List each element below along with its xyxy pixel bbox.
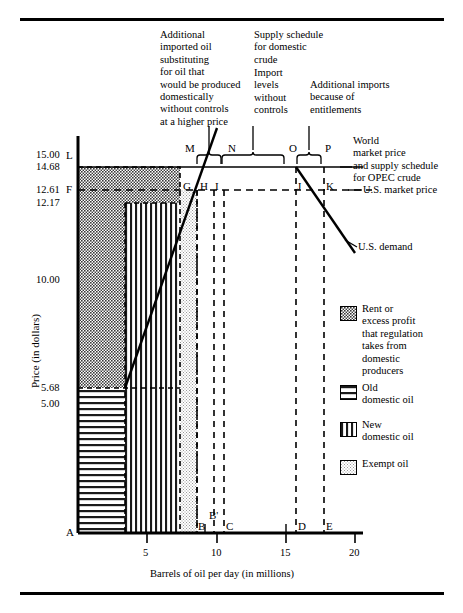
xtick-5: 5 [143, 547, 148, 558]
x-axis-title: Barrels of oil per day (in millions) [150, 568, 294, 580]
xtick-20: 20 [349, 547, 360, 558]
legend-label-rent: Rent or excess profit that regulation ta… [362, 303, 458, 377]
legend-swatch-old-domestic-oil [340, 385, 357, 400]
point-label-K: K [326, 181, 334, 192]
region-exempt-oil [180, 190, 197, 533]
vertical-drop-lines [197, 167, 324, 533]
point-label-O: O [289, 143, 297, 154]
brace-M-N [197, 152, 221, 164]
y-axis-title: Price (in dollars) [29, 314, 41, 388]
point-label-M: M [185, 143, 195, 154]
annotation-supply-schedule: Supply schedule for domestic crude [254, 29, 340, 66]
point-label-F: F [66, 184, 72, 195]
point-label-B: B [198, 521, 205, 532]
ytick-10-00: 10.00 [36, 274, 60, 285]
figure-root: Additional imported oil substituting for… [0, 0, 463, 613]
point-label-C: C [226, 521, 233, 532]
legend-swatch-exempt-oil [340, 460, 357, 475]
legend-label-old-domestic-oil: Old domestic oil [362, 382, 458, 407]
legend-swatch-rent [340, 306, 357, 321]
point-label-J: J [297, 181, 301, 192]
brace-O-P [297, 152, 321, 164]
point-label-D: D [298, 521, 306, 532]
annotation-import-levels: Import levels without controls [254, 67, 306, 117]
point-label-N: N [228, 143, 236, 154]
annotation-additional-imports: Additional imports because of entitlemen… [310, 79, 418, 116]
point-label-P: P [325, 143, 331, 154]
annotation-us-market-price: U.S. market price [363, 184, 463, 196]
ytick-12-17: 12.17 [36, 197, 60, 208]
annotation-us-demand: U.S. demand [358, 241, 448, 253]
point-label-E: E [326, 521, 333, 532]
point-label-L: L [66, 150, 73, 161]
ytick-14-68: 14.68 [36, 161, 60, 172]
ytick-5-00: 5.00 [41, 398, 59, 409]
annotation-world-market-price: World market price and supply schedule f… [353, 135, 461, 185]
annotation-additional-imported-oil: Additional imported oil substituting for… [160, 29, 248, 128]
xtick-10: 10 [211, 547, 222, 558]
point-label-H: H [200, 181, 208, 192]
ytick-5-68: 5.68 [41, 382, 59, 393]
point-label-A: A [66, 527, 74, 538]
legend-label-new-domestic-oil: New domestic oil [362, 419, 458, 444]
legend-label-exempt-oil: Exempt oil [362, 458, 458, 470]
legend-swatch-new-domestic-oil [340, 422, 357, 437]
point-label-Bprime: B' [209, 510, 218, 521]
ytick-12-61: 12.61 [36, 184, 60, 195]
xtick-15: 15 [280, 547, 291, 558]
point-label-G: G [183, 181, 191, 192]
ytick-15-00: 15.00 [36, 149, 60, 160]
region-old-domestic-oil [78, 388, 125, 533]
brace-group [197, 152, 321, 164]
point-label-I: I [215, 181, 219, 192]
